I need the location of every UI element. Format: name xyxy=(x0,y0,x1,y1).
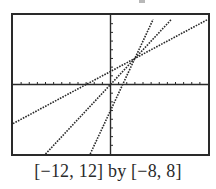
plot-area xyxy=(13,15,208,154)
window-caption: [−12, 12] by [−8, 8] xyxy=(0,161,216,182)
graph-line-2 xyxy=(46,19,172,154)
graph-line-3 xyxy=(90,19,153,154)
axes xyxy=(13,15,208,154)
graph-window xyxy=(11,13,210,156)
cropped-text-fragment xyxy=(139,0,145,3)
